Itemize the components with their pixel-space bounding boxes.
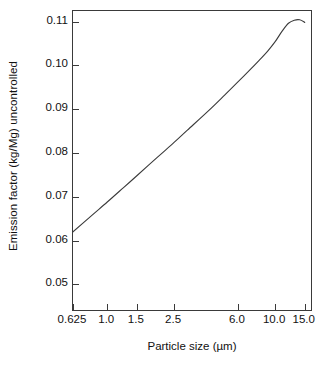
plot-area: [72, 10, 312, 311]
x-axis-tick-label: 10.0: [263, 314, 285, 326]
y-axis-tick: [73, 153, 79, 154]
y-axis-tick-label: 0.11: [28, 15, 68, 27]
y-axis-tick-label: 0.09: [28, 102, 68, 114]
x-axis-tick-label: 1.0: [98, 314, 114, 326]
y-axis-title-container: Emission factor (kg/Mg) uncontrolled: [0, 0, 26, 311]
x-axis-tick-label: 2.5: [165, 314, 181, 326]
series-line-uncontrolled: [73, 20, 305, 232]
x-axis-title: Particle size (µm): [72, 340, 312, 352]
y-axis-tick-label: 0.08: [28, 146, 68, 158]
x-axis-tick: [73, 304, 74, 310]
y-axis-tick-label: 0.05: [28, 278, 68, 290]
y-axis-title: Emission factor (kg/Mg) uncontrolled: [7, 60, 19, 250]
x-axis-tick: [305, 304, 306, 310]
x-axis-tick-labels: 0.6251.01.52.56.010.015.0: [72, 314, 312, 330]
x-axis-tick: [238, 304, 239, 310]
x-axis-tick: [275, 304, 276, 310]
y-axis-tick: [73, 284, 79, 285]
x-axis-tick: [174, 304, 175, 310]
x-axis-tick: [107, 304, 108, 310]
y-axis-tick: [73, 22, 79, 23]
x-axis-tick: [137, 304, 138, 310]
y-axis-tick: [73, 65, 79, 66]
x-axis-tick-label: 0.625: [58, 314, 87, 326]
x-axis-tick-label: 6.0: [229, 314, 245, 326]
y-axis-tick-labels: 0.050.060.070.080.090.100.11: [26, 0, 68, 365]
y-axis-tick-label: 0.07: [28, 190, 68, 202]
y-axis-tick-label: 0.06: [28, 234, 68, 246]
chart-figure: Emission factor (kg/Mg) uncontrolled 0.0…: [0, 0, 325, 365]
data-curve-svg: [73, 11, 313, 312]
y-axis-tick: [73, 241, 79, 242]
y-axis-tick-label: 0.10: [28, 59, 68, 71]
x-axis-tick-label: 15.0: [293, 314, 315, 326]
x-axis-tick-label: 1.5: [128, 314, 144, 326]
y-axis-tick: [73, 109, 79, 110]
y-axis-tick: [73, 197, 79, 198]
